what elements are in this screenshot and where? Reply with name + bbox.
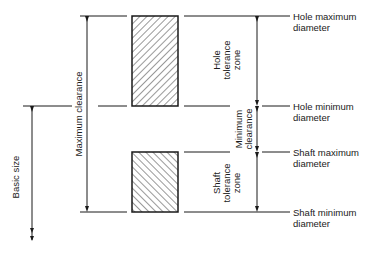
maximum-clearance-label: Maximum clearance (74, 64, 86, 164)
hole-tolerance-box (132, 16, 178, 106)
hole-min-label: Hole minimum diameter (293, 101, 354, 123)
shaft-tolerance-box (132, 152, 178, 212)
shaft-max-label: Shaft maximum diameter (293, 147, 359, 169)
hole-tolerance-zone-label: Hole tolerance zone (212, 35, 244, 85)
basic-size-label: Basic size (11, 147, 23, 207)
shaft-min-label: Shaft minimum diameter (293, 207, 356, 229)
hole-max-label: Hole maximum diameter (293, 11, 356, 33)
shaft-tolerance-zone-label: Shaft tolerance zone (212, 158, 244, 208)
minimum-clearance-label: Minimum clearance (234, 106, 256, 152)
